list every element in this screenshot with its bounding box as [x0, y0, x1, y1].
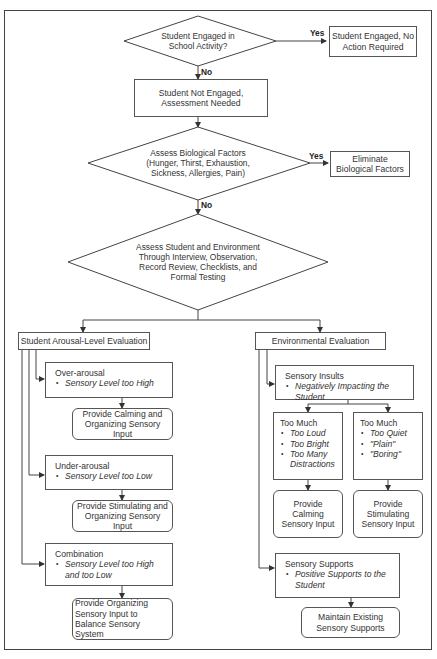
node-environmental-evaluation: Environmental Evaluation	[255, 332, 386, 350]
node-combination-title: Combination	[55, 549, 166, 559]
biological-question-text: Assess Biological Factors (Hunger, Thirs…	[140, 143, 256, 183]
bullet-item: "Boring"	[370, 449, 416, 459]
node-not-engaged-text: Student Not Engaged, Assessment Needed	[151, 88, 251, 109]
node-stimulating-sensory-text: Provide Stimulating Sensory Input	[357, 499, 419, 530]
node-over-arousal-title: Over-arousal	[55, 368, 166, 378]
node-calming-sensory: Provide Calming Sensory Input	[273, 490, 343, 538]
bullet-item: "Plain"	[370, 439, 416, 449]
bullet-item: Sensory Level too High	[65, 378, 166, 388]
node-too-much-low: Too Much Too Quiet "Plain" "Boring"	[353, 412, 423, 480]
bullet-item: Too Quiet	[370, 428, 416, 438]
bullet-item: Sensory Level too Low	[65, 471, 166, 481]
node-calming-organizing: Provide Calming and Organizing Sensory I…	[72, 408, 173, 440]
edge-label-yes: Yes	[310, 28, 324, 38]
node-eliminate-biological: Eliminate Biological Factors	[330, 151, 410, 177]
node-too-much-low-title: Too Much	[360, 418, 416, 428]
assess-question-text: Assess Student and Environment Through I…	[128, 240, 268, 284]
edge-label-yes: Yes	[309, 151, 323, 161]
node-combination: Combination Sensory Level too High and t…	[45, 543, 173, 586]
node-too-much-high-title: Too Much	[280, 418, 336, 428]
bullet-item: Too Bright	[290, 439, 336, 449]
bullet-item: Sensory Level too High and too Low	[65, 559, 155, 580]
node-sensory-supports: Sensory Supports Positive Supports to th…	[275, 553, 400, 598]
node-sensory-insults-title: Sensory Insults	[285, 371, 407, 381]
node-not-engaged: Student Not Engaged, Assessment Needed	[134, 79, 268, 117]
edge-label-no: No	[201, 200, 212, 210]
bullet-item: Too Many Distractions	[290, 449, 336, 470]
node-sensory-insults: Sensory Insults Negatively Impacting the…	[275, 365, 414, 400]
node-sensory-supports-title: Sensory Supports	[285, 559, 393, 569]
edge-label-no: No	[201, 67, 212, 77]
node-stimulating-organizing-text: Provide Stimulating and Organizing Senso…	[77, 501, 169, 532]
bullet-item: Positive Supports to the Student	[295, 569, 393, 590]
node-stimulating-sensory: Provide Stimulating Sensory Input	[353, 490, 423, 538]
node-balance-sensory: Provide Organizing Sensory Input to Bala…	[72, 598, 173, 640]
node-stimulating-organizing: Provide Stimulating and Organizing Senso…	[72, 500, 173, 532]
node-maintain-supports: Maintain Existing Sensory Supports	[301, 607, 400, 638]
node-balance-sensory-text: Provide Organizing Sensory Input to Bala…	[75, 598, 170, 639]
flowchart-canvas: Student Engaged in School Activity? Asse…	[0, 0, 437, 659]
engaged-question-text: Student Engaged in School Activity?	[148, 28, 248, 54]
node-under-arousal: Under-arousal Sensory Level too Low	[45, 455, 173, 490]
node-too-much-high: Too Much Too Loud Too Bright Too Many Di…	[273, 412, 343, 480]
node-under-arousal-title: Under-arousal	[55, 461, 166, 471]
bullet-item: Negatively Impacting the Student	[295, 381, 407, 402]
node-over-arousal: Over-arousal Sensory Level too High	[45, 362, 173, 398]
node-maintain-supports-text: Maintain Existing Sensory Supports	[311, 612, 391, 633]
node-calming-sensory-text: Provide Calming Sensory Input	[277, 499, 339, 530]
node-calming-organizing-text: Provide Calming and Organizing Sensory I…	[77, 409, 169, 440]
node-engaged-no-action: Student Engaged, No Action Required	[329, 26, 417, 57]
node-eliminate-biological-text: Eliminate Biological Factors	[335, 154, 405, 175]
node-arousal-evaluation: Student Arousal-Level Evaluation	[18, 332, 150, 350]
bullet-item: Too Loud	[290, 428, 336, 438]
